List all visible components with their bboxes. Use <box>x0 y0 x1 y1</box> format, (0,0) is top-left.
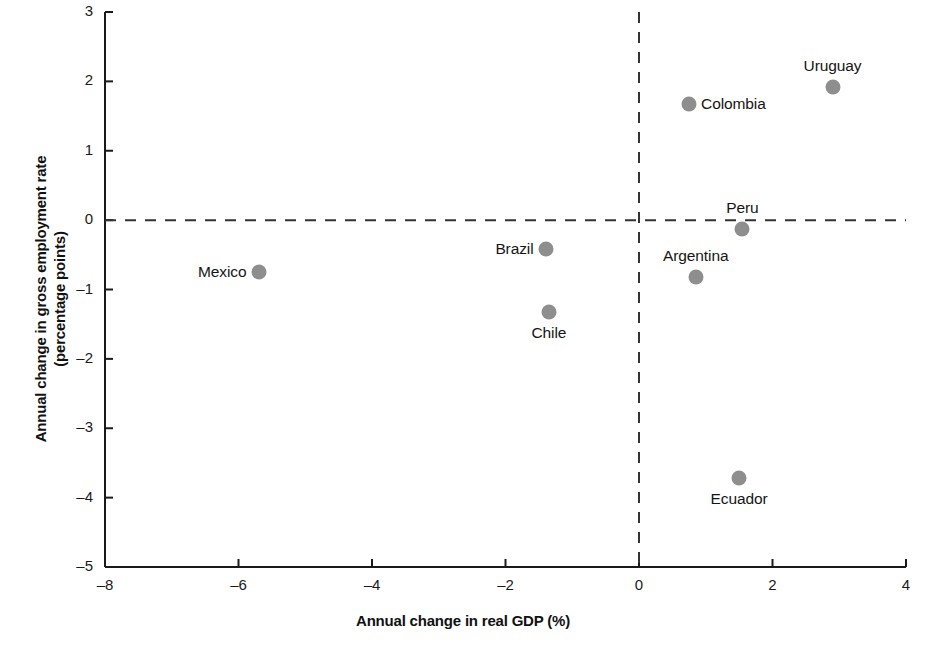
y-axis-tick-label: 3 <box>53 2 93 19</box>
y-axis-title-line-1: Annual change in gross employment rate <box>31 19 50 579</box>
data-point-marker[interactable] <box>688 270 703 285</box>
x-axis-tick-label: 4 <box>886 576 926 593</box>
data-point-label: Ecuador <box>711 490 768 508</box>
data-point-label: Mexico <box>198 263 247 281</box>
data-point-label: Chile <box>531 324 566 342</box>
y-axis-title: Annual change in gross employment rate (… <box>31 19 69 579</box>
x-axis-title: Annual change in real GDP (%) <box>0 612 926 629</box>
data-point-marker[interactable] <box>732 471 747 486</box>
x-axis-tick-label: –6 <box>219 576 259 593</box>
plot-canvas <box>0 0 926 645</box>
data-point-label: Uruguay <box>804 57 862 75</box>
data-point-label: Peru <box>726 199 758 217</box>
data-point-marker[interactable] <box>251 265 266 280</box>
data-point-marker[interactable] <box>538 242 553 257</box>
data-point-label: Brazil <box>495 240 533 258</box>
scatter-chart-figure: –8–6–4–2024–5–4–3–2–10123 MexicoBrazilCh… <box>0 0 926 645</box>
x-axis-tick-label: –8 <box>85 576 125 593</box>
y-axis-title-line-2: (percentage points) <box>50 19 69 579</box>
data-point-label: Colombia <box>701 95 766 113</box>
data-point-marker[interactable] <box>682 96 697 111</box>
x-axis-tick-label: –4 <box>352 576 392 593</box>
data-point-marker[interactable] <box>825 79 840 94</box>
x-axis-tick-label: 0 <box>619 576 659 593</box>
x-axis-tick-label: 2 <box>753 576 793 593</box>
x-axis-tick-label: –2 <box>486 576 526 593</box>
data-point-label: Argentina <box>663 247 728 265</box>
data-point-marker[interactable] <box>735 222 750 237</box>
data-point-marker[interactable] <box>541 304 556 319</box>
